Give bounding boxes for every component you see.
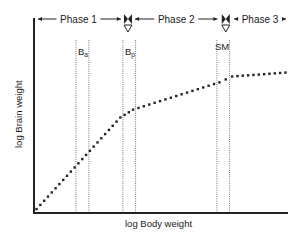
curve-dot xyxy=(258,73,260,75)
curve-dot xyxy=(35,208,37,210)
curve-dot xyxy=(89,150,91,152)
y-axis-label: log Brain weight xyxy=(13,80,24,148)
curve-dot xyxy=(236,75,238,77)
curve-dot xyxy=(175,95,177,97)
curve-dot xyxy=(51,191,53,193)
curve-dot xyxy=(92,145,94,147)
phase-label-2: Phase 2 xyxy=(158,14,195,25)
curve-dot xyxy=(191,90,193,92)
curve-dot xyxy=(73,166,75,168)
curve-dot xyxy=(108,129,110,131)
growth-curve xyxy=(35,71,286,210)
curve-dot xyxy=(137,107,139,109)
curve-dot xyxy=(81,158,83,160)
curve-dot xyxy=(39,204,41,206)
curve-dot xyxy=(112,125,114,127)
curve-dot xyxy=(104,133,106,135)
curve-dot xyxy=(70,170,72,172)
curve-dot xyxy=(242,75,244,77)
curve-dot xyxy=(202,86,204,88)
band-label-sm: SM xyxy=(215,41,229,52)
transition-marker-bowtie-1 xyxy=(124,14,132,24)
phase-arrowhead-right-2 xyxy=(213,17,217,21)
curve-dot xyxy=(279,72,281,74)
curve-dot xyxy=(159,100,161,102)
phase-annotations: Phase 1Phase 2Phase 3 xyxy=(38,14,286,25)
curve-dot xyxy=(284,71,286,73)
curve-dot xyxy=(47,195,49,197)
curve-dot xyxy=(180,93,182,95)
curve-dot xyxy=(143,105,145,107)
curve-dot xyxy=(100,137,102,139)
curve-dot xyxy=(247,74,249,76)
curve-dot xyxy=(252,74,254,76)
x-axis-label: log Body weight xyxy=(125,218,192,229)
curve-dot xyxy=(148,103,150,105)
curve-dot xyxy=(128,111,130,113)
curve-dot xyxy=(119,116,121,118)
curve-dot xyxy=(96,141,98,143)
phase-arrowhead-left-2 xyxy=(135,17,139,21)
curve-dot xyxy=(85,154,87,156)
band-labels: BaBpSM xyxy=(78,41,229,59)
curve-dot xyxy=(225,78,227,80)
curve-dot xyxy=(132,108,134,110)
curve-dot xyxy=(77,162,79,164)
transition-marker-triangle-1 xyxy=(124,25,132,32)
curve-dot xyxy=(54,187,56,189)
vertical-bands xyxy=(76,40,230,213)
curve-dot xyxy=(115,120,117,122)
curve-dot xyxy=(274,72,276,74)
band-label-subscript: p xyxy=(131,51,135,59)
phase-arrowhead-right-3 xyxy=(282,17,286,21)
band-label-bp: Bp xyxy=(125,46,135,59)
curve-dot xyxy=(164,98,166,100)
band-label-subscript: a xyxy=(84,51,88,58)
phase-arrowhead-left-1 xyxy=(38,17,42,21)
curve-dot xyxy=(170,97,172,99)
curve-dot xyxy=(263,73,265,75)
curve-dot xyxy=(231,75,233,77)
curve-dot xyxy=(123,114,125,116)
curve-dot xyxy=(58,183,60,185)
curve-dot xyxy=(197,88,199,90)
band-label-ba: Ba xyxy=(78,46,88,58)
curve-dot xyxy=(62,179,64,181)
curve-dot xyxy=(218,81,220,83)
phase-label-1: Phase 1 xyxy=(60,14,97,25)
transition-marker-bowtie-2 xyxy=(222,14,230,24)
chart: Phase 1Phase 2Phase 3 BaBpSM log Body we… xyxy=(0,0,304,232)
transition-marker-triangle-2 xyxy=(222,25,230,32)
phase-arrowhead-left-3 xyxy=(234,17,238,21)
phase-arrowhead-right-1 xyxy=(117,17,121,21)
curve-dot xyxy=(186,91,188,93)
curve-dot xyxy=(207,85,209,87)
curve-dot xyxy=(213,83,215,85)
phase-label-3: Phase 3 xyxy=(242,14,279,25)
curve-dot xyxy=(66,175,68,177)
curve-dot xyxy=(268,73,270,75)
curve-dot xyxy=(43,200,45,202)
curve-dot xyxy=(153,102,155,104)
